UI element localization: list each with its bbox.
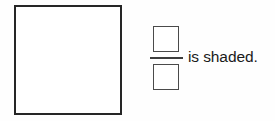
worksheet-item: is shaded. <box>0 0 275 121</box>
statement-label: is shaded. <box>188 47 258 67</box>
fraction-denominator-box[interactable] <box>153 64 179 90</box>
fraction-numerator-box[interactable] <box>153 26 179 52</box>
shape-square <box>14 5 122 115</box>
fraction-answer <box>150 26 183 90</box>
fraction-bar-icon <box>150 57 183 59</box>
